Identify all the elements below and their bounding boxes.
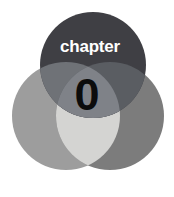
chapter-opener-graphic: chapter 0 — [0, 0, 174, 197]
chapter-number-label: 0 — [74, 69, 99, 120]
chapter-word-label: chapter — [60, 37, 121, 56]
venn-diagram: chapter 0 — [0, 0, 174, 197]
